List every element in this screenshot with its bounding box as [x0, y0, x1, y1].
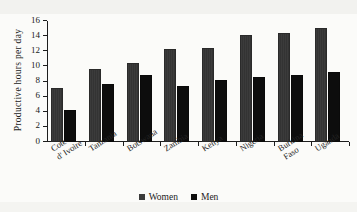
x-axis-category-labels: Cote d' IvoireTanzaniaBotswanaZambiaKeny…: [47, 145, 349, 193]
legend-label: Women: [149, 192, 178, 202]
x-tick-8: [349, 142, 350, 146]
y-tick-label-6: 6: [36, 89, 41, 101]
y-tick-label-14: 14: [31, 29, 40, 41]
legend-swatch-women-icon: [139, 194, 145, 200]
legend-item-men: Men: [191, 192, 218, 202]
y-tick-label-12: 12: [31, 44, 40, 56]
y-tick-label-2: 2: [36, 119, 41, 131]
y-tick-label-8: 8: [36, 74, 41, 86]
y-tick-label-4: 4: [36, 104, 41, 116]
legend-swatch-men-icon: [191, 194, 197, 200]
legend-item-women: Women: [139, 192, 178, 202]
legend-label: Men: [201, 192, 218, 202]
y-tick-label-16: 16: [31, 14, 40, 26]
y-tick-label-0: 0: [36, 135, 41, 147]
scan-tint-top: [0, 0, 357, 14]
chart-legend: WomenMen: [0, 192, 357, 202]
y-axis-title: Productive hours per day: [13, 15, 23, 145]
bar-women: [51, 88, 63, 142]
scan-tint-bottom: [0, 202, 357, 212]
bar-chart-figure: Productive hours per day 1614121086420 C…: [0, 0, 357, 212]
bar-women: [127, 63, 139, 142]
y-tick-label-10: 10: [31, 59, 40, 71]
